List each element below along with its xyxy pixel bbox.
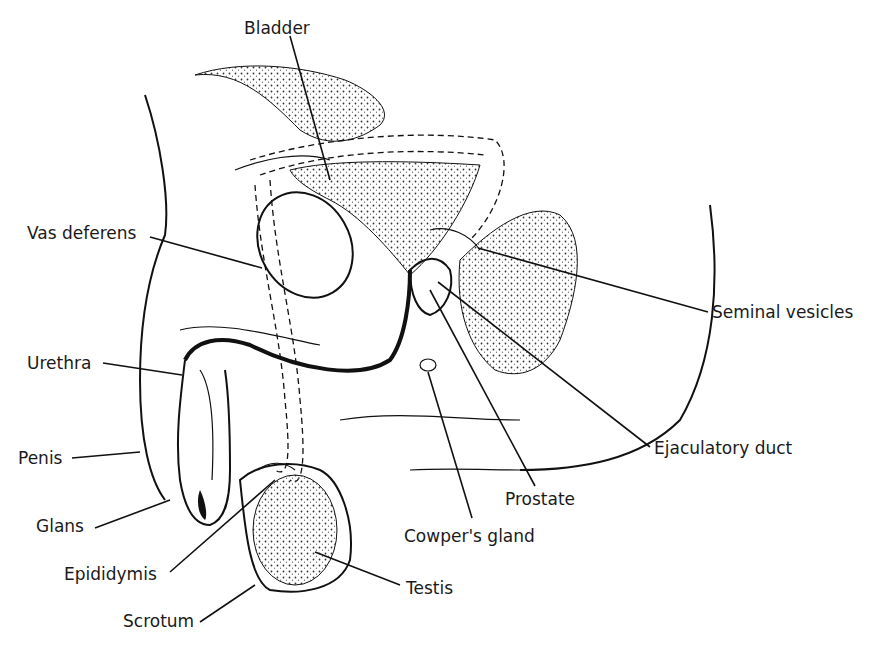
- label-urethra: Urethra: [27, 355, 91, 372]
- label-cowpers-gland: Cowper's gland: [404, 528, 535, 545]
- cowpers-gland-shape: [420, 359, 436, 371]
- label-prostate: Prostate: [505, 491, 575, 508]
- label-testis: Testis: [406, 580, 453, 597]
- diagram-drawing: [0, 0, 873, 651]
- penis-shape: [178, 360, 230, 525]
- label-scrotum: Scrotum: [123, 613, 194, 630]
- label-bladder: Bladder: [244, 20, 310, 37]
- label-seminal-vesicles: Seminal vesicles: [712, 304, 853, 321]
- leader-lines: [72, 36, 708, 622]
- label-vas-deferens: Vas deferens: [27, 225, 136, 242]
- label-penis: Penis: [18, 450, 62, 467]
- vas-deferens-path: [255, 180, 303, 482]
- urethra-path: [185, 270, 410, 371]
- body-outline: [140, 95, 715, 500]
- anatomy-diagram: Bladder Vas deferens Urethra Penis Glans…: [0, 0, 873, 651]
- label-ejaculatory-duct: Ejaculatory duct: [654, 440, 792, 457]
- label-epididymis: Epididymis: [64, 566, 157, 583]
- testis-shape: [253, 475, 337, 585]
- scrotum-testis: [240, 463, 351, 591]
- label-glans: Glans: [36, 518, 84, 535]
